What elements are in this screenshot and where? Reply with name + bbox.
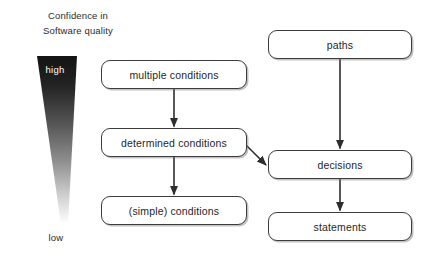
- node-determined-conditions[interactable]: determined conditions: [101, 128, 247, 157]
- node-decisions[interactable]: decisions: [268, 150, 412, 179]
- node-simple-conditions[interactable]: (simple) conditions: [101, 196, 247, 225]
- node-label: statements: [314, 221, 367, 233]
- confidence-gradient-wedge: [30, 56, 86, 224]
- node-label: decisions: [317, 159, 362, 171]
- node-label: (simple) conditions: [129, 205, 219, 217]
- node-paths[interactable]: paths: [268, 30, 412, 59]
- node-multiple-conditions[interactable]: multiple conditions: [101, 60, 247, 89]
- legend-caption-line-1: Confidence in: [18, 8, 138, 23]
- node-statements[interactable]: statements: [268, 212, 412, 241]
- node-label: paths: [327, 39, 353, 51]
- node-label: multiple conditions: [129, 69, 218, 81]
- legend-low-label: low: [30, 232, 82, 243]
- edge-determined-to-decisions: [246, 145, 266, 165]
- legend-caption: Confidence in Software quality: [18, 8, 138, 38]
- node-label: determined conditions: [121, 137, 227, 149]
- legend-caption-line-2: Software quality: [18, 23, 138, 38]
- diagram-canvas: Confidence in Software quality high low: [0, 0, 434, 260]
